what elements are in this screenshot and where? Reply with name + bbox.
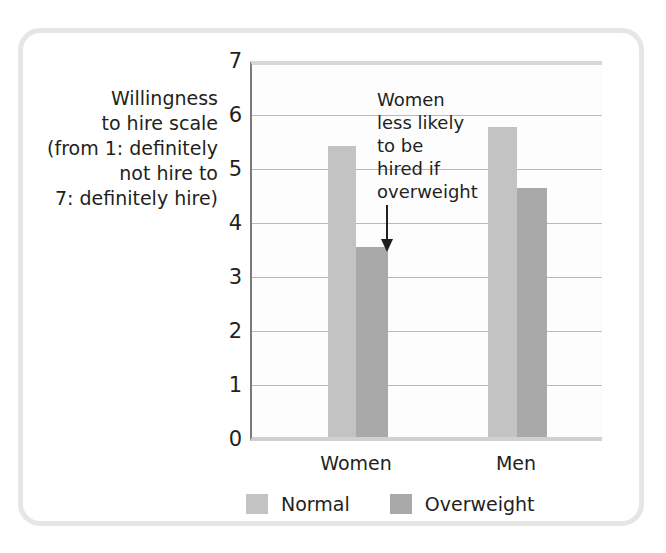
bar-women-normal bbox=[328, 146, 356, 437]
y-tick-0: 0 bbox=[214, 429, 242, 450]
y-tick-5: 5 bbox=[214, 159, 242, 180]
y-tick-1: 1 bbox=[214, 375, 242, 396]
gridline-3 bbox=[252, 277, 602, 278]
x-category-women: Women bbox=[306, 452, 406, 474]
y-axis-label-line-2: to hire scale bbox=[28, 111, 218, 136]
y-tick-3: 3 bbox=[214, 267, 242, 288]
y-axis-label-line-1: Willingness bbox=[28, 86, 218, 111]
annotation-line-5: overweight bbox=[377, 180, 478, 203]
annotation-line-2: less likely bbox=[377, 111, 478, 134]
gridline-2 bbox=[252, 331, 602, 332]
y-axis-label-line-3: (from 1: definitely bbox=[28, 136, 218, 161]
annotation-arrow-down-icon bbox=[377, 205, 397, 253]
x-category-men: Men bbox=[476, 452, 556, 474]
y-axis-label: Willingness to hire scale (from 1: defin… bbox=[28, 86, 218, 211]
legend-item-normal: Normal bbox=[246, 493, 350, 515]
chart-figure: Willingness to hire scale (from 1: defin… bbox=[0, 0, 666, 553]
y-axis-label-line-5: 7: definitely hire) bbox=[28, 186, 218, 211]
y-tick-4: 4 bbox=[214, 213, 242, 234]
y-tick-2: 2 bbox=[214, 321, 242, 342]
bar-men-normal bbox=[488, 127, 517, 437]
bar-men-overweight bbox=[517, 188, 547, 437]
gridline-1 bbox=[252, 385, 602, 386]
legend-swatch-overweight bbox=[390, 494, 412, 514]
legend-swatch-normal bbox=[246, 494, 268, 514]
legend-item-overweight: Overweight bbox=[390, 493, 535, 515]
legend-label-normal: Normal bbox=[281, 493, 350, 515]
chart-annotation: Women less likely to be hired if overwei… bbox=[377, 88, 478, 203]
annotation-line-1: Women bbox=[377, 88, 478, 111]
legend-label-overweight: Overweight bbox=[425, 493, 535, 515]
y-tick-7: 7 bbox=[214, 51, 242, 72]
gridline-4 bbox=[252, 223, 602, 224]
annotation-line-4: hired if bbox=[377, 157, 478, 180]
y-tick-6: 6 bbox=[214, 105, 242, 126]
annotation-line-3: to be bbox=[377, 134, 478, 157]
bar-women-overweight bbox=[356, 247, 388, 437]
y-axis-ticks: 7 6 5 4 3 2 1 0 bbox=[210, 61, 242, 441]
chart-legend: Normal Overweight bbox=[246, 493, 535, 515]
y-axis-label-line-4: not hire to bbox=[28, 161, 218, 186]
